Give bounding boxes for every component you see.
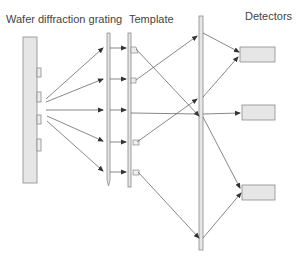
rays-wafer-to-grating (46, 48, 103, 171)
detector-2 (242, 105, 275, 120)
rays-grating-to-template (110, 48, 126, 172)
wafer (23, 37, 41, 183)
template-feature (131, 78, 136, 83)
detector-1 (240, 47, 275, 62)
wafer-bump (37, 139, 41, 151)
wafer-bump (37, 68, 41, 77)
rays-template-to-mirror (131, 36, 199, 238)
mirror-bar (199, 16, 203, 250)
rays-mirror-to-detectors (203, 33, 241, 238)
template (128, 33, 139, 187)
diffraction-grating (107, 33, 110, 186)
wafer-bump (37, 92, 41, 102)
detectors (240, 47, 275, 200)
detector-3 (242, 185, 275, 200)
template-feature (133, 140, 139, 145)
diagram-canvas (0, 0, 302, 261)
wafer-bump (37, 115, 41, 124)
